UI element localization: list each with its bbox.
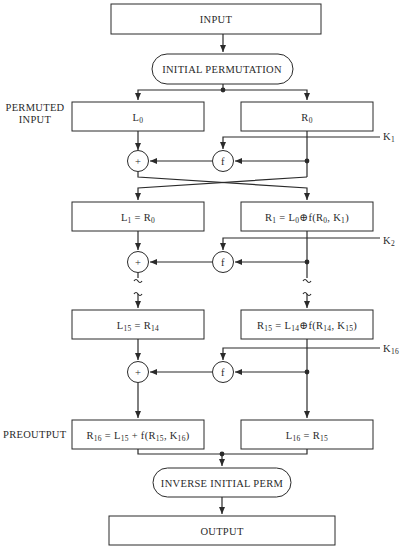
output-block: OUTPUT [109,516,335,545]
inverse-initial-perm-label: INVERSE INITIAL PERM [161,478,284,489]
r0-block: R0 [241,102,373,131]
preoutput-label: PREOUTPUT [3,429,67,440]
key-1-label: K1 [383,131,395,144]
l1-block: L1 = R0 [72,202,204,231]
l16-block: L16 = R15 [241,420,373,449]
arrow-to-l0 [138,90,223,100]
des-flow-diagram: INPUT INITIAL PERMUTATION PERMUTED INPUT… [0,0,407,550]
key1-line [223,137,380,149]
l15-block: L15 = R14 [72,310,204,339]
break-mark-icon [134,280,142,283]
permuted-input-label-1: PERMUTED [6,102,65,113]
arrow-to-r0 [223,90,307,100]
r1-block: R1 = L0⊕f(R0, K1) [241,202,373,231]
f-label: f [221,257,225,268]
initial-permutation-label: INITIAL PERMUTATION [162,64,282,75]
input-label: INPUT [200,14,233,25]
r15-block: R15 = L14⊕f(R14, K15) [241,310,373,339]
input-block: INPUT [111,4,321,34]
xor-label: + [135,257,141,268]
key16-line [223,348,380,360]
xor-label: + [135,367,141,378]
r16-block: R16 = L15 + f(R15, K16) [72,420,204,449]
key-2-label: K2 [383,235,395,248]
xor-label: + [135,156,141,167]
cross-right-to-left [138,177,307,200]
key2-line [223,238,380,250]
permuted-input-label-2: INPUT [19,114,52,125]
l0-block: L0 [72,102,204,131]
f-label: f [221,367,225,378]
initial-permutation-block: INITIAL PERMUTATION [152,54,293,84]
break-mark-icon [303,280,311,283]
key-16-label: K16 [383,343,399,356]
f-label: f [221,156,225,167]
break-marks [134,280,311,296]
output-label: OUTPUT [200,526,244,537]
inverse-initial-perm-block: INVERSE INITIAL PERM [153,468,291,497]
